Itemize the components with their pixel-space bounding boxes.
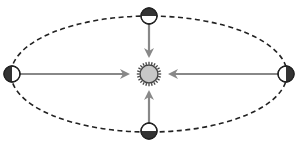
sun-ray	[151, 62, 152, 65]
planet-top	[141, 8, 157, 24]
sun-ray	[157, 68, 159, 69]
sun-ray	[146, 62, 147, 65]
planet-shadow	[141, 131, 157, 139]
sun-ray	[143, 82, 144, 84]
sun-ray	[140, 81, 142, 83]
sun-ray	[156, 81, 158, 83]
sun-ray	[138, 79, 140, 80]
sun-ray	[157, 79, 159, 80]
sun-ray	[137, 71, 140, 72]
planet-shadow	[4, 66, 12, 82]
sun-ray	[140, 65, 142, 67]
planet-left	[4, 66, 20, 82]
planet-bottom	[141, 123, 157, 139]
orbit-diagram	[0, 0, 298, 151]
planet-shadow	[286, 66, 294, 82]
sun-disc	[140, 65, 158, 83]
sun-ray	[154, 63, 155, 65]
sun-ray	[151, 83, 152, 86]
sun-ray	[158, 71, 161, 72]
sun-ray	[143, 63, 144, 65]
sun-ray	[158, 76, 161, 77]
sun-icon	[137, 62, 161, 86]
sun-ray	[138, 68, 140, 69]
sun-ray	[154, 82, 155, 84]
sun-ray	[137, 76, 140, 77]
planet-shadow	[141, 8, 157, 16]
planet-right	[278, 66, 294, 82]
sun-ray	[156, 65, 158, 67]
sun-ray	[146, 83, 147, 86]
